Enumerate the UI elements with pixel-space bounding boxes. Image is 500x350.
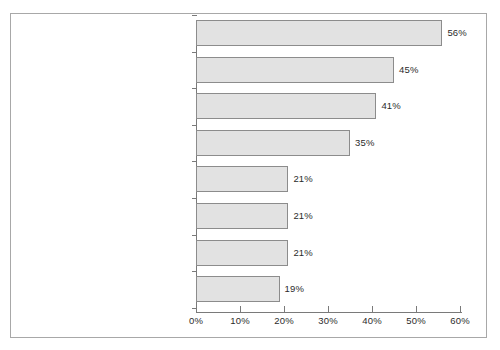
bar-value-label: 21%	[293, 173, 313, 184]
bar	[196, 240, 288, 266]
bar-value-label: 56%	[447, 27, 467, 38]
bar-value-label: 41%	[381, 100, 401, 111]
bar-value-label: 45%	[399, 64, 419, 75]
bar-value-label: 19%	[285, 283, 305, 294]
x-tick-label: 40%	[362, 315, 382, 326]
bar	[196, 93, 376, 119]
y-tick	[192, 15, 197, 16]
x-tick-50pct	[416, 306, 417, 312]
x-tick-20pct	[284, 306, 285, 312]
x-tick-label: 50%	[406, 315, 426, 326]
y-tick	[192, 235, 197, 236]
bar-chart-figure: 0%10%20%30%40%50%60% 56%45%41%35%21%21%2…	[0, 0, 500, 350]
y-tick	[192, 308, 197, 309]
x-tick-10pct	[240, 306, 241, 312]
x-tick-30pct	[328, 306, 329, 312]
bar	[196, 20, 442, 46]
bar	[196, 166, 288, 192]
y-tick	[192, 125, 197, 126]
bar	[196, 57, 394, 83]
x-tick-40pct	[372, 306, 373, 312]
y-tick	[192, 271, 197, 272]
bar	[196, 130, 350, 156]
value-axis-line	[196, 312, 462, 313]
bar-value-label: 21%	[293, 247, 313, 258]
x-tick-label: 0%	[189, 315, 203, 326]
bar	[196, 276, 280, 302]
y-tick	[192, 198, 197, 199]
x-tick-60pct	[460, 306, 461, 312]
x-tick-label: 10%	[230, 315, 250, 326]
x-tick-label: 20%	[274, 315, 294, 326]
x-tick-label: 30%	[318, 315, 338, 326]
x-tick-label: 60%	[450, 315, 470, 326]
y-tick	[192, 52, 197, 53]
bar-value-label: 35%	[355, 137, 375, 148]
bar-value-label: 21%	[293, 210, 313, 221]
y-tick	[192, 88, 197, 89]
y-tick	[192, 161, 197, 162]
bar	[196, 203, 288, 229]
